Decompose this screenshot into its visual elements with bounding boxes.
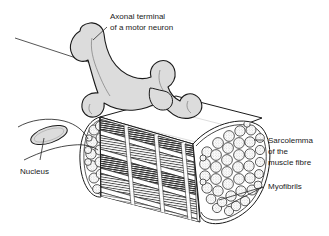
- axonal-terminal-line2: of a motor neuron: [110, 23, 173, 32]
- sarcolemma-line1: Sarcolemma: [268, 136, 313, 145]
- anatomy-diagram: Axonal terminal of a motor neuron Nucleu…: [0, 0, 329, 236]
- myofibrils-line1: Myofibrils: [268, 182, 302, 191]
- nucleus-line1: Nucleus: [20, 167, 49, 176]
- sarcolemma-line2: of the: [268, 147, 289, 156]
- diagram-canvas: Axonal terminal of a motor neuron Nucleu…: [0, 0, 329, 236]
- axonal-terminal-line1: Axonal terminal: [110, 12, 165, 21]
- sarcolemma-line3: muscle fibre: [268, 158, 312, 167]
- label-myofibrils: Myofibrils: [268, 182, 302, 191]
- label-nucleus: Nucleus: [20, 167, 49, 176]
